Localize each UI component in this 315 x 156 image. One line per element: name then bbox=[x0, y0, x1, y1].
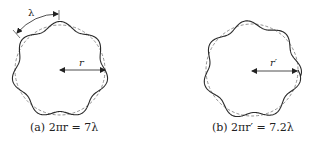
figure-a: r λ bbox=[12, 7, 107, 115]
radius-label-a: r bbox=[79, 57, 85, 68]
figure-b: r′ bbox=[204, 21, 301, 117]
wavelength-arc bbox=[17, 14, 58, 33]
radius-label-b: r′ bbox=[270, 57, 278, 68]
caption-b: (b) 2πr′ = 7.2λ bbox=[212, 121, 294, 134]
standing-wave-b bbox=[204, 21, 301, 117]
wavelength-label: λ bbox=[28, 7, 35, 18]
caption-a: (a) 2πr = 7λ bbox=[30, 121, 98, 134]
